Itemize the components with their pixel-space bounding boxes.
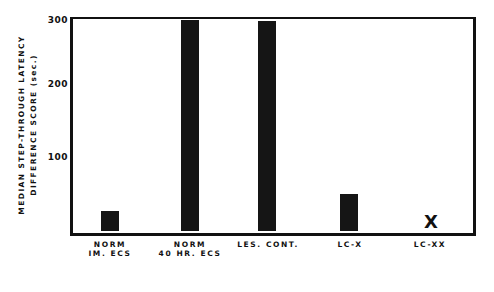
x-marker-lc-xx: X — [424, 211, 438, 232]
bar-lc-x — [340, 194, 358, 231]
y-tick-100: 100 — [48, 152, 68, 162]
y-axis-label-line-2: DIFFERENCE SCORE (sec.) — [28, 35, 40, 214]
x-label-les-cont: LES. CONT. — [237, 240, 299, 249]
x-label-norm-im-ecs: NORM IM. ECS — [88, 240, 131, 258]
x-label-line: LES. CONT. — [237, 240, 299, 249]
x-label-line: LC-X — [337, 240, 362, 249]
x-label-line: NORM — [159, 240, 222, 249]
x-label-line: NORM — [88, 240, 131, 249]
bar-norm-40-hr-ecs — [181, 20, 199, 231]
y-axis-label: MEDIAN STEP-THROUGH LATENCY DIFFERENCE S… — [8, 20, 48, 230]
y-axis-label-line-1: MEDIAN STEP-THROUGH LATENCY — [16, 35, 28, 214]
y-tick-300: 300 — [48, 15, 68, 25]
x-label-line: 40 HR. ECS — [159, 249, 222, 258]
x-label-line: IM. ECS — [88, 249, 131, 258]
y-tick-200: 200 — [48, 79, 68, 89]
bar-les-cont- — [258, 21, 276, 231]
x-label-lc-xx: LC-XX — [414, 240, 447, 249]
bar-norm-im-ecs — [101, 211, 119, 231]
x-label-lc-x: LC-X — [337, 240, 362, 249]
x-label-norm-40hr-ecs: NORM 40 HR. ECS — [159, 240, 222, 258]
x-label-line: LC-XX — [414, 240, 447, 249]
